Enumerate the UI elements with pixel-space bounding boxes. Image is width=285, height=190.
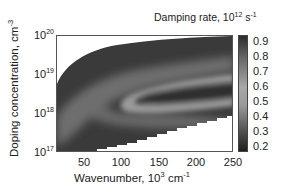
heatmap-graphic [57, 36, 233, 152]
x-tick-label: 250 [224, 157, 242, 168]
y-tick-label: 1017 [34, 145, 54, 158]
colorbar [238, 35, 248, 152]
colorbar-tick: 0.5 [253, 96, 268, 107]
x-tick-label: 200 [187, 157, 205, 168]
x-tick-label: 150 [150, 157, 168, 168]
colorbar-tick: 0.6 [253, 81, 268, 92]
colorbar-tick: 0.3 [253, 126, 268, 137]
colorbar-tick: 0.4 [253, 111, 268, 122]
heatmap-plot-area [56, 35, 233, 152]
x-axis-label: Wavenumber, 103 cm-1 [74, 170, 190, 184]
y-tick-label: 1019 [34, 67, 54, 80]
y-axis-label: Doping concentration, cm-3 [6, 20, 20, 157]
y-tick-label: 1020 [34, 28, 54, 41]
x-tick-label: 50 [78, 157, 90, 168]
y-tick-label: 1018 [34, 106, 54, 119]
colorbar-tick: 0.7 [253, 66, 268, 77]
colorbar-tick: 0.2 [253, 141, 268, 152]
x-tick-label: 100 [112, 157, 130, 168]
chart-title: Damping rate, 1012 s-1 [154, 11, 257, 23]
colorbar-tick: 0.8 [253, 51, 268, 62]
colorbar-tick: 0.9 [253, 36, 268, 47]
